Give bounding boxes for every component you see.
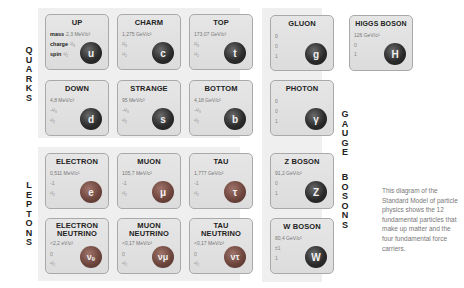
- particle-name: PHOTON: [271, 85, 333, 93]
- particle-symbol-icon: s: [152, 108, 174, 130]
- mass-row: mass2,3 MeV/c²: [50, 31, 90, 37]
- particle-card-z-boson: Z BOSON 91,2 GeV/c² 0 1 Z: [270, 153, 334, 209]
- particle-symbol-icon: νₑ: [80, 246, 102, 268]
- particle-card-muon-neutrino: MUONNEUTRINO <0,17 MeV/c² 0 ¹/₂ νμ: [117, 218, 181, 274]
- particle-name-line2: NEUTRINO: [129, 229, 169, 238]
- particle-name: BOTTOM: [190, 85, 252, 93]
- particle-spin: 1: [275, 118, 278, 124]
- particle-spin: ¹/₂: [50, 117, 55, 123]
- particle-charge: 0: [275, 43, 278, 49]
- particle-charge: 0: [122, 251, 125, 257]
- particle-card-top: TOP 173,07 GeV/c² ²/₃ ¹/₂ t: [189, 14, 253, 70]
- particle-symbol-icon: τ: [224, 181, 246, 203]
- particle-charge: 0: [275, 108, 278, 114]
- particle-spin: ¹/₂: [194, 117, 199, 123]
- charge-row: charge²/₃: [50, 41, 75, 47]
- quarks-label-text: QUARKS: [24, 46, 34, 103]
- charge-label: charge: [50, 41, 68, 47]
- particle-charge: -1: [50, 180, 54, 186]
- particle-card-muon: MUON 105,7 MeV/c² -1 ¹/₂ μ: [117, 153, 181, 209]
- particle-card-bottom: BOTTOM 4,18 GeV/c² -¹/₃ ¹/₂ b: [189, 80, 253, 136]
- particle-symbol-icon: γ: [305, 108, 327, 130]
- particle-spin: 1: [275, 190, 278, 196]
- gauge-label: GAUGE: [340, 110, 350, 158]
- particle-charge: ²/₃: [122, 41, 127, 47]
- particle-symbol-icon: W: [305, 246, 327, 268]
- particle-name: STRANGE: [118, 85, 180, 93]
- particle-spin: 1: [275, 53, 278, 59]
- gauge-label-text: GAUGE: [340, 110, 350, 158]
- particle-symbol-icon: e: [80, 181, 102, 203]
- particle-spin: ¹/₂: [50, 260, 55, 266]
- particle-card-down: DOWN 4,8 MeV/c² -¹/₃ ¹/₂ d: [45, 80, 109, 136]
- particle-charge: ±1: [275, 245, 281, 251]
- particle-card-charm: CHARM 1,275 GeV/c² ²/₃ ¹/₂ c: [117, 14, 181, 70]
- particle-spin: ¹/₂: [122, 190, 127, 196]
- particle-name: DOWN: [46, 85, 108, 93]
- particle-spin: ¹/₂: [122, 117, 127, 123]
- particle-symbol-icon: b: [224, 108, 246, 130]
- particle-mass: 1,275 GeV/c²: [122, 31, 151, 37]
- particle-card-electron: ELECTRON 0,511 MeV/c² -1 ¹/₂ e: [45, 153, 109, 209]
- particle-charge: -1: [122, 180, 126, 186]
- particle-card-gluon: GLUON 0 0 1 g: [270, 15, 334, 71]
- particle-spin: ¹/₂: [194, 260, 199, 266]
- particle-name: TAU: [190, 158, 252, 166]
- particle-charge: ²/₃: [70, 41, 75, 47]
- particle-name: W BOSON: [271, 223, 333, 231]
- particle-charge: -1: [194, 180, 198, 186]
- particle-name: TOP: [190, 19, 252, 27]
- particle-mass: 0: [275, 98, 278, 104]
- particle-mass: 1,777 GeV/c²: [194, 170, 223, 176]
- bosons-label: BOSONS: [340, 173, 350, 230]
- particle-name-line2: NEUTRINO: [57, 229, 97, 238]
- particle-charge: -¹/₃: [122, 107, 129, 113]
- particle-mass: 95 MeV/c²: [122, 97, 145, 103]
- particle-card-electron-neutrino: ELECTRONNEUTRINO <2,2 eV/c² 0 ¹/₂ νₑ: [45, 218, 109, 274]
- particle-card-tau: TAU 1,777 GeV/c² -1 ¹/₂ τ: [189, 153, 253, 209]
- particle-symbol-icon: Z: [305, 181, 327, 203]
- particle-card-higgs-boson: HIGGS BOSON 126 GeV/c² 0 1 H: [349, 15, 413, 71]
- spin-row: spin¹/₂: [50, 51, 68, 57]
- particle-spin: ¹/₂: [194, 51, 199, 57]
- particle-name: CHARM: [118, 19, 180, 27]
- mass-label: mass: [50, 31, 64, 37]
- particle-name: MUONNEUTRINO: [118, 222, 180, 238]
- particle-symbol-icon: c: [152, 42, 174, 64]
- particle-spin: ¹/₂: [194, 190, 199, 196]
- particle-name: TAUNEUTRINO: [190, 222, 252, 238]
- particle-mass: 105,7 MeV/c²: [122, 170, 152, 176]
- particle-mass: 4,8 MeV/c²: [50, 97, 74, 103]
- particle-mass: 2,3 MeV/c²: [66, 31, 90, 37]
- particle-charge: 0: [275, 180, 278, 186]
- particle-spin: ¹/₂: [50, 190, 55, 196]
- bosons-label-text: BOSONS: [340, 173, 350, 230]
- particle-charge: 0: [354, 42, 357, 48]
- particle-spin: ¹/₂: [63, 51, 68, 57]
- particle-symbol-icon: t: [224, 42, 246, 64]
- particle-symbol-icon: u: [80, 42, 102, 64]
- particle-name: MUON: [118, 158, 180, 166]
- particle-mass: 0: [275, 33, 278, 39]
- particle-spin: ¹/₂: [122, 51, 127, 57]
- particle-charge: ²/₃: [194, 41, 199, 47]
- particle-symbol-icon: ντ: [224, 246, 246, 268]
- particle-mass: <0,17 MeV/c²: [122, 240, 152, 246]
- particle-card-photon: PHOTON 0 0 1 γ: [270, 80, 334, 136]
- particle-card-up: UP mass2,3 MeV/c² charge²/₃ spin¹/₂ u: [45, 14, 109, 70]
- particle-mass: 126 GeV/c²: [354, 32, 379, 38]
- particle-name-line2: NEUTRINO: [201, 229, 241, 238]
- particle-symbol-icon: νμ: [152, 246, 174, 268]
- particle-card-w-boson: W BOSON 80,4 GeV/c² ±1 1 W: [270, 218, 334, 274]
- particle-spin: 1: [354, 51, 357, 57]
- particle-mass: 91,2 GeV/c²: [275, 170, 302, 176]
- particle-mass: 4,18 GeV/c²: [194, 97, 221, 103]
- description-text: This diagram of the Standard Model of pa…: [382, 186, 460, 253]
- particle-symbol-icon: H: [384, 43, 406, 65]
- particle-name: Z BOSON: [271, 158, 333, 166]
- particle-mass: 0,511 MeV/c²: [50, 170, 79, 176]
- particle-charge: 0: [194, 251, 197, 257]
- particle-symbol-icon: μ: [152, 181, 174, 203]
- particle-charge: -¹/₃: [50, 107, 57, 113]
- spin-label: spin: [50, 51, 61, 57]
